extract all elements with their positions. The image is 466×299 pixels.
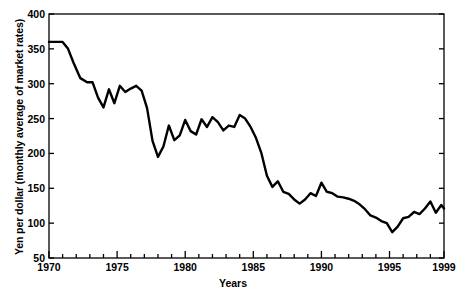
x-tick-label: 1970	[29, 262, 69, 273]
x-tick-label: 1990	[301, 262, 341, 273]
x-axis-tick-labels: 1970197519801985199019951999	[0, 262, 466, 278]
plot-area	[0, 0, 466, 299]
data-series-line	[49, 42, 444, 232]
x-tick-label: 1975	[97, 262, 137, 273]
x-tick-label: 1995	[370, 262, 410, 273]
x-tick-label: 1999	[424, 262, 464, 273]
x-tick-label: 1980	[165, 262, 205, 273]
x-axis-title: Years	[0, 277, 466, 289]
chart-container: Yen per dollar (monthly average of marke…	[0, 0, 466, 299]
x-tick-label: 1985	[233, 262, 273, 273]
x-axis-ticks	[49, 251, 444, 258]
